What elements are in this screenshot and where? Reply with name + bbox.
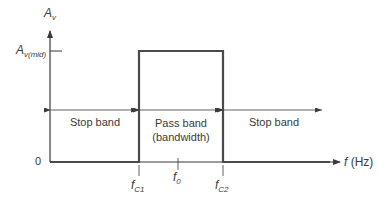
fc2-label: fC2: [215, 178, 229, 194]
y-axis-label: Av: [44, 6, 56, 22]
f0-label: f0: [173, 170, 181, 186]
pass-band-label: Pass band (bandwidth): [140, 116, 222, 144]
zero-label: 0: [35, 155, 41, 167]
diagram-canvas: [0, 0, 378, 206]
mid-level-label: Av(mid): [16, 43, 46, 59]
response-curve: [50, 51, 330, 162]
x-axis-label: f (Hz): [344, 155, 373, 169]
stop-band-left-label: Stop band: [52, 116, 138, 128]
stop-band-right-label: Stop band: [226, 116, 322, 128]
fc1-label: fC1: [131, 178, 145, 194]
